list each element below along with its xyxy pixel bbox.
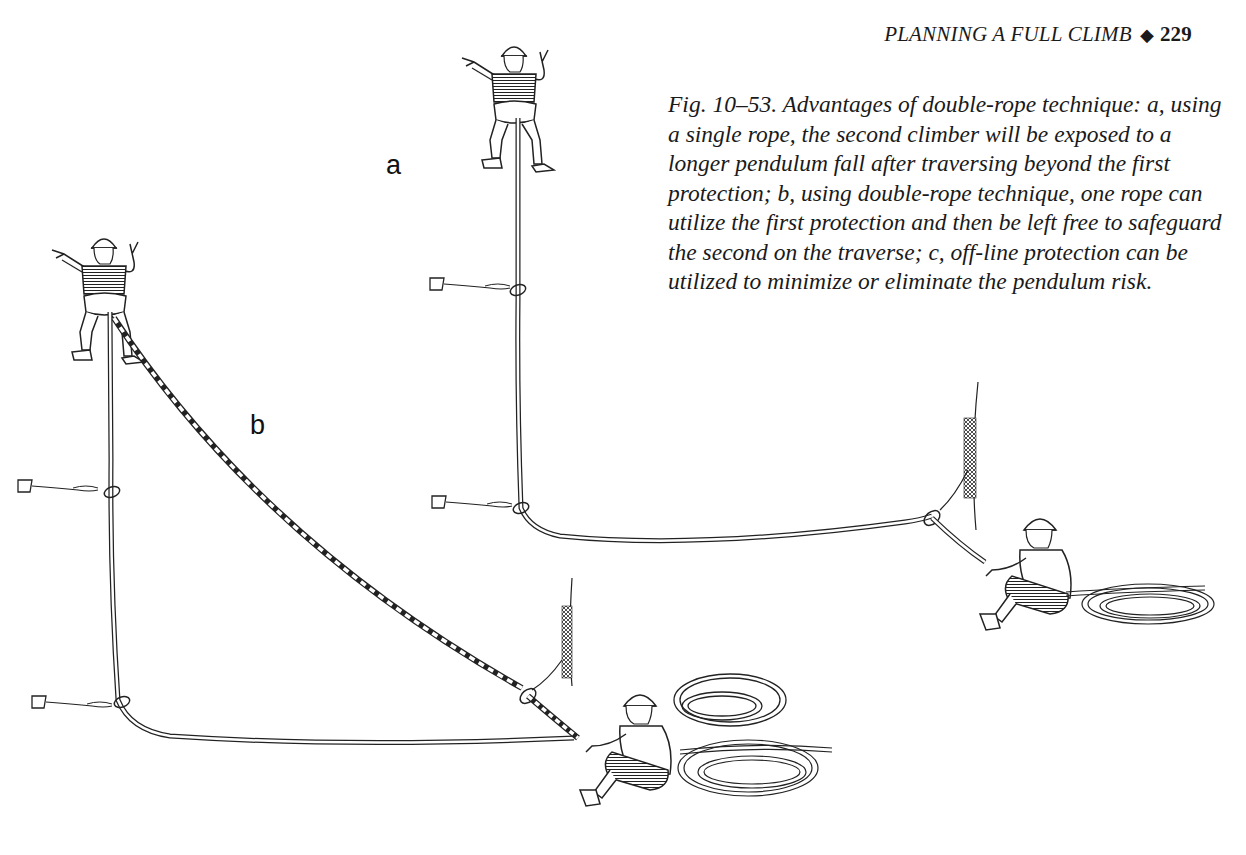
- panel-a-illustration: [430, 47, 1214, 630]
- double-rope-illustration: [0, 0, 1246, 855]
- panel-b-illustration: [18, 239, 832, 806]
